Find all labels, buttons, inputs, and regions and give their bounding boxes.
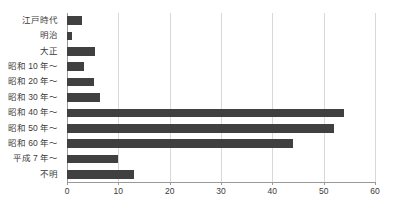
y-axis-label: 昭和 50 年～: [0, 121, 63, 136]
bar-row: [67, 59, 375, 74]
bar-row: [67, 74, 375, 89]
x-tick-mark: [375, 182, 376, 185]
x-tick-mark: [272, 182, 273, 185]
y-axis-label: 昭和 60 年～: [0, 136, 63, 151]
x-tick-label: 50: [319, 186, 328, 196]
y-axis-label: 明治: [0, 28, 63, 43]
x-tick-mark: [118, 182, 119, 185]
bar-row: [67, 121, 375, 136]
y-axis-label: 昭和 20 年～: [0, 74, 63, 89]
bar-row: [67, 28, 375, 43]
y-axis-label: 江戸時代: [0, 13, 63, 28]
x-tick-mark: [324, 182, 325, 185]
bar: [67, 32, 72, 41]
bar-row: [67, 151, 375, 166]
y-axis-label: 不明: [0, 167, 63, 182]
bar-row: [67, 105, 375, 120]
y-axis-label: 昭和 40 年～: [0, 105, 63, 120]
bar: [67, 109, 344, 118]
plot-area: [67, 13, 375, 182]
bar: [67, 78, 94, 87]
x-tick-mark: [67, 182, 68, 185]
bar-row: [67, 136, 375, 151]
x-tick-label: 20: [165, 186, 174, 196]
bar: [67, 124, 334, 133]
y-axis-category-labels: 江戸時代明治大正昭和 10 年～昭和 20 年～昭和 30 年～昭和 40 年～…: [0, 13, 63, 182]
x-tick-label: 40: [268, 186, 277, 196]
bar: [67, 93, 100, 102]
bar: [67, 16, 82, 25]
bar-row: [67, 167, 375, 182]
bar-row: [67, 44, 375, 59]
gridline-60: [375, 13, 376, 182]
x-tick-label: 30: [216, 186, 225, 196]
y-axis-label: 昭和 30 年～: [0, 90, 63, 105]
y-axis-label: 昭和 10 年～: [0, 59, 63, 74]
y-axis-label: 平成 7 年～: [0, 151, 63, 166]
bar-row: [67, 13, 375, 28]
x-axis-ticks: 0102030405060: [67, 182, 375, 200]
x-tick-label: 0: [65, 186, 70, 196]
bar-series: [67, 13, 375, 182]
x-tick-label: 10: [114, 186, 123, 196]
bar: [67, 139, 293, 148]
x-tick-mark: [170, 182, 171, 185]
bar: [67, 170, 134, 179]
y-axis-label: 大正: [0, 44, 63, 59]
x-tick-label: 60: [370, 186, 379, 196]
bar-row: [67, 90, 375, 105]
bar: [67, 47, 95, 56]
bar-chart: 江戸時代明治大正昭和 10 年～昭和 20 年～昭和 30 年～昭和 40 年～…: [0, 0, 397, 218]
bar: [67, 62, 84, 71]
x-tick-mark: [221, 182, 222, 185]
bar: [67, 155, 118, 164]
